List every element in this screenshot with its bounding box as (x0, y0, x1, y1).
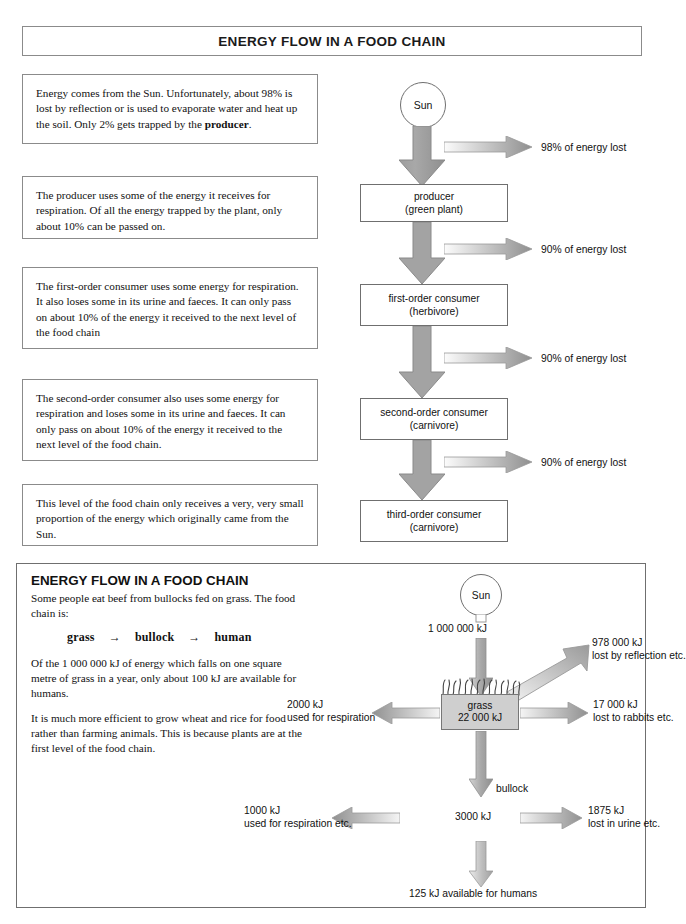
bottom-sun-label: Sun (472, 590, 490, 601)
page-title: ENERGY FLOW IN A FOOD CHAIN (218, 34, 445, 49)
loss-arrow-icon-1 (444, 238, 532, 260)
explanation-text-0: Energy comes from the Sun. Unfortunately… (36, 86, 304, 132)
bullock-energy-diagram: Sun 1 000 000 kJ (207, 564, 645, 908)
rabbits-loss-line2: lost to rabbits etc. (593, 712, 674, 723)
loss-label-3: 90% of energy lost (541, 457, 626, 468)
bullock-respiration-line1: 1000 kJ (244, 805, 280, 816)
loss-arrow-row-0: 98% of energy lost (444, 136, 626, 158)
loss-arrow-row-1: 90% of energy lost (444, 238, 626, 260)
explanation-text-1: The producer uses some of the energy it … (36, 188, 304, 234)
reflection-loss-label: 978 000 kJ lost by reflection etc. (592, 636, 686, 662)
grass-tuft-icon (439, 676, 523, 696)
reflection-loss-line1: 978 000 kJ (592, 637, 642, 648)
bottom-panel: ENERGY FLOW IN A FOOD CHAIN Some people … (16, 563, 646, 908)
chain-box-third-line1: third-order consumer (387, 508, 482, 521)
chain-box-first-order-consumer: first-order consumer (herbivore) (360, 284, 508, 326)
down-arrow-first-to-second (399, 326, 445, 398)
bullock-respiration-label: 1000 kJ used for respiration etc. (244, 804, 352, 830)
down-arrow-producer-to-first (399, 222, 445, 284)
grass-box-line2: 22 000 kJ (458, 712, 502, 724)
loss-label-2: 90% of energy lost (541, 353, 626, 364)
down-arrow-second-to-third (399, 440, 445, 500)
explanation-body-3: The second-order consumer also uses some… (36, 392, 285, 450)
grass-respiration-line2: used for respiration (287, 712, 375, 723)
left-arrow-grass-respiration (372, 702, 440, 724)
chain-box-producer-line2: (green plant) (405, 203, 463, 216)
right-arrow-lost-in-urine (520, 807, 582, 829)
sun-energy-label: 1 000 000 kJ (428, 622, 487, 635)
bullock-respiration-line2: used for respiration etc. (244, 818, 352, 829)
chain-box-producer: producer (green plant) (360, 184, 508, 222)
bullock-label: bullock (496, 782, 528, 795)
sun-circle: Sun (400, 82, 446, 128)
bottom-sun-circle: Sun (460, 574, 502, 616)
urine-loss-label: 1875 kJ lost in urine etc. (588, 804, 660, 830)
explanation-text-2: The first-order consumer uses some energ… (36, 279, 304, 341)
chain-box-third-line2: (carnivore) (410, 521, 459, 534)
chain-box-first-line2: (herbivore) (409, 305, 458, 318)
chain-box-third-order-consumer: third-order consumer (carnivore) (360, 500, 508, 542)
loss-label-0: 98% of energy lost (541, 142, 626, 153)
page-title-banner: ENERGY FLOW IN A FOOD CHAIN (22, 26, 642, 56)
food-chain-arrow-1: → (188, 630, 200, 645)
urine-loss-line2: lost in urine etc. (588, 818, 660, 829)
rabbits-loss-label: 17 000 kJ lost to rabbits etc. (593, 698, 674, 724)
explanation-text-4: This level of the food chain only receiv… (36, 496, 304, 542)
chain-box-producer-line1: producer (414, 190, 454, 203)
final-energy-label: 125 kJ available for humans (409, 887, 537, 900)
urine-loss-line1: 1875 kJ (588, 805, 624, 816)
explanation-tail-0: . (249, 118, 252, 130)
food-chain-item-0: grass (67, 630, 95, 645)
energy-chain-diagram: Sun (352, 70, 652, 550)
chain-box-second-order-consumer: second-order consumer (carnivore) (360, 398, 508, 440)
explanation-box-1: The producer uses some of the energy it … (22, 176, 318, 239)
explanation-box-0: Energy comes from the Sun. Unfortunately… (22, 74, 318, 144)
explanation-box-4: This level of the food chain only receiv… (22, 484, 318, 546)
reflection-loss-line2: lost by reflection etc. (592, 650, 686, 661)
down-arrow-grass-to-bullock (469, 731, 493, 797)
loss-arrow-icon-2 (444, 347, 532, 369)
loss-label-1: 90% of energy lost (541, 244, 626, 255)
grass-respiration-label: 2000 kJ used for respiration (287, 698, 375, 724)
grass-box-line1: grass (468, 700, 493, 712)
loss-arrow-icon-0 (444, 136, 532, 158)
rabbits-loss-line1: 17 000 kJ (593, 699, 638, 710)
explanation-text-3: The second-order consumer also uses some… (36, 391, 304, 453)
explanation-body-0: Energy comes from the Sun. Unfortunately… (36, 87, 297, 130)
explanation-box-3: The second-order consumer also uses some… (22, 379, 318, 461)
food-chain-item-1: bullock (135, 630, 174, 645)
food-chain-arrow-0: → (109, 630, 121, 645)
explanation-body-4: This level of the food chain only receiv… (36, 497, 304, 540)
chain-box-second-line2: (carnivore) (410, 419, 459, 432)
loss-arrow-icon-3 (444, 451, 532, 473)
grass-box: grass 22 000 kJ (441, 694, 519, 730)
explanation-body-1: The producer uses some of the energy it … (36, 189, 282, 232)
grass-respiration-line1: 2000 kJ (287, 699, 323, 710)
chain-box-first-line1: first-order consumer (388, 292, 479, 305)
loss-arrow-row-3: 90% of energy lost (444, 451, 626, 473)
explanation-body-2: The first-order consumer uses some energ… (36, 280, 299, 338)
explanation-emphasis-0: producer (205, 118, 249, 130)
down-arrow-to-humans (469, 841, 493, 887)
bullock-energy-label: 3000 kJ (455, 810, 491, 823)
chain-box-second-line1: second-order consumer (380, 406, 488, 419)
down-arrow-sun-to-producer (399, 126, 445, 186)
sun-label: Sun (414, 99, 433, 111)
explanation-box-2: The first-order consumer uses some energ… (22, 267, 318, 349)
loss-arrow-row-2: 90% of energy lost (444, 347, 626, 369)
right-arrow-lost-to-rabbits (520, 702, 588, 724)
